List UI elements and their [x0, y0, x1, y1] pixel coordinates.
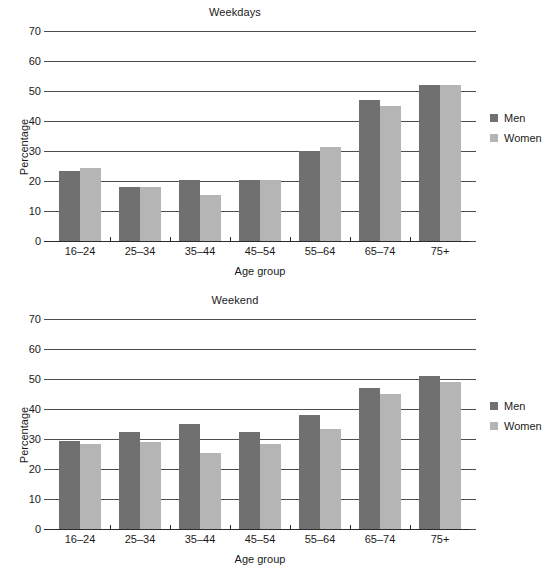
legend-label-men: Men	[504, 112, 525, 124]
x-tick-label-25–34: 25–34	[125, 533, 156, 545]
x-tick-label-45–54: 45–54	[245, 245, 276, 257]
y-tick-mark-right-40	[470, 121, 476, 122]
x-axis-title: Age group	[50, 553, 470, 565]
plot-area-weekend: Percentage 706050403020100 16–2425–3435–…	[50, 319, 470, 529]
bar-group: 45–54	[230, 31, 290, 241]
bar-group: 65–74	[350, 31, 410, 241]
bar-group: 16–24	[50, 31, 110, 241]
bar-women-16–24[interactable]	[80, 168, 101, 242]
x-tick-label-35–44: 35–44	[185, 245, 216, 257]
bar-women-75+[interactable]	[440, 85, 461, 241]
bar-women-25–34[interactable]	[140, 442, 161, 529]
bar-men-45–54[interactable]	[239, 432, 260, 530]
bar-women-65–74[interactable]	[380, 106, 401, 241]
chart-title-weekdays: Weekdays	[0, 6, 470, 18]
legend-swatch-women-icon	[490, 422, 498, 430]
x-tick-label-65–74: 65–74	[365, 245, 396, 257]
bar-women-55–64[interactable]	[320, 429, 341, 530]
chart-panel-weekend: Weekend Percentage 706050403020100 16–24…	[0, 288, 553, 575]
bar-men-25–34[interactable]	[119, 432, 140, 530]
bar-men-16–24[interactable]	[59, 441, 80, 530]
y-tick-mark-right-10	[470, 499, 476, 500]
bar-men-25–34[interactable]	[119, 187, 140, 241]
bar-groups-weekdays: 16–2425–3435–4445–5455–6465–7475+	[50, 31, 470, 241]
chart-title-weekend: Weekend	[0, 294, 470, 306]
bar-women-16–24[interactable]	[80, 444, 101, 530]
chart-panel-weekdays: Weekdays Percentage 706050403020100 16–2…	[0, 0, 553, 287]
y-tick-label-60: 60	[29, 55, 41, 67]
x-tick-label-16–24: 16–24	[65, 245, 96, 257]
bar-group: 25–34	[110, 31, 170, 241]
bar-women-45–54[interactable]	[260, 180, 281, 242]
y-tick-label-20: 20	[29, 175, 41, 187]
y-tick-label-0: 0	[35, 523, 41, 535]
bar-group: 75+	[410, 319, 470, 529]
legend-label-women: Women	[504, 420, 542, 432]
legend-label-women: Women	[504, 132, 542, 144]
y-tick-mark-right-60	[470, 61, 476, 62]
y-tick-mark-right-40	[470, 409, 476, 410]
y-tick-mark-right-0	[470, 241, 476, 242]
bar-women-25–34[interactable]	[140, 187, 161, 241]
bar-men-75+[interactable]	[419, 85, 440, 241]
x-tick-label-55–64: 55–64	[305, 245, 336, 257]
y-tick-label-70: 70	[29, 25, 41, 37]
x-tick-label-45–54: 45–54	[245, 533, 276, 545]
bar-women-75+[interactable]	[440, 382, 461, 529]
bar-men-55–64[interactable]	[299, 151, 320, 241]
bar-women-45–54[interactable]	[260, 444, 281, 530]
bar-men-65–74[interactable]	[359, 100, 380, 241]
y-tick-label-10: 10	[29, 205, 41, 217]
y-tick-mark-right-50	[470, 91, 476, 92]
bar-men-55–64[interactable]	[299, 415, 320, 529]
x-tick-label-55–64: 55–64	[305, 533, 336, 545]
bar-groups-weekend: 16–2425–3435–4445–5455–6465–7475+	[50, 319, 470, 529]
bar-men-65–74[interactable]	[359, 388, 380, 529]
y-tick-mark-right-10	[470, 211, 476, 212]
bar-women-55–64[interactable]	[320, 147, 341, 242]
bar-men-45–54[interactable]	[239, 180, 260, 242]
x-tick-label-25–34: 25–34	[125, 245, 156, 257]
y-tick-label-20: 20	[29, 463, 41, 475]
y-tick-mark-right-20	[470, 181, 476, 182]
bar-group: 35–44	[170, 31, 230, 241]
y-tick-label-50: 50	[29, 85, 41, 97]
bar-group: 25–34	[110, 319, 170, 529]
bar-men-75+[interactable]	[419, 376, 440, 529]
legend-label-men: Men	[504, 400, 525, 412]
y-tick-mark-right-70	[470, 31, 476, 32]
x-tick-label-65–74: 65–74	[365, 533, 396, 545]
y-tick-label-40: 40	[29, 115, 41, 127]
legend-weekend: Men Women	[490, 400, 542, 440]
bar-group: 35–44	[170, 319, 230, 529]
bar-women-35–44[interactable]	[200, 195, 221, 242]
bar-men-16–24[interactable]	[59, 171, 80, 242]
bar-women-65–74[interactable]	[380, 394, 401, 529]
y-tick-label-30: 30	[29, 433, 41, 445]
y-tick-mark-right-50	[470, 379, 476, 380]
bar-group: 45–54	[230, 319, 290, 529]
bar-women-35–44[interactable]	[200, 453, 221, 530]
x-tick-label-16–24: 16–24	[65, 533, 96, 545]
bar-group: 55–64	[290, 319, 350, 529]
figure-two-bar-charts: Weekdays Percentage 706050403020100 16–2…	[0, 0, 553, 575]
y-tick-label-40: 40	[29, 403, 41, 415]
bar-men-35–44[interactable]	[179, 180, 200, 242]
y-tick-mark-right-20	[470, 469, 476, 470]
y-tick-label-50: 50	[29, 373, 41, 385]
bar-group: 16–24	[50, 319, 110, 529]
y-tick-mark-right-30	[470, 151, 476, 152]
y-tick-mark-right-60	[470, 349, 476, 350]
bar-men-35–44[interactable]	[179, 424, 200, 529]
x-tick-label-75+: 75+	[431, 245, 450, 257]
x-tick-label-75+: 75+	[431, 533, 450, 545]
legend-swatch-men-icon	[490, 114, 498, 122]
y-tick-mark-right-70	[470, 319, 476, 320]
bar-group: 65–74	[350, 319, 410, 529]
y-tick-mark-right-30	[470, 439, 476, 440]
plot-area-weekdays: Percentage 706050403020100 16–2425–3435–…	[50, 31, 470, 241]
legend-item-men: Men	[490, 400, 542, 412]
legend-swatch-men-icon	[490, 402, 498, 410]
y-tick-label-0: 0	[35, 235, 41, 247]
y-tick-label-10: 10	[29, 493, 41, 505]
